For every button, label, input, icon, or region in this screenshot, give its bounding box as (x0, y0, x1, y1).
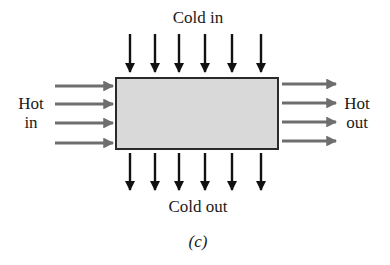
hot-in-label: Hot in (10, 94, 52, 132)
cold-in-label: Cold in (160, 8, 236, 27)
hot-out-label: Hot out (336, 94, 378, 132)
heat-exchanger-diagram: Cold in Cold out Hot in Hot out (c) (0, 0, 390, 265)
exchanger-core (116, 78, 278, 149)
figure-caption: (c) (180, 232, 216, 251)
hot-in-label-line1: Hot (10, 94, 52, 113)
hot-in-label-line2: in (10, 113, 52, 132)
hot-out-arrows (282, 84, 336, 141)
hot-out-label-line2: out (336, 113, 378, 132)
diagram-graphics (0, 0, 390, 265)
hot-out-label-line1: Hot (336, 94, 378, 113)
hot-in-arrows (55, 86, 113, 143)
cold-out-arrows (130, 153, 261, 190)
cold-in-arrows (130, 34, 261, 72)
cold-out-label: Cold out (155, 197, 241, 216)
